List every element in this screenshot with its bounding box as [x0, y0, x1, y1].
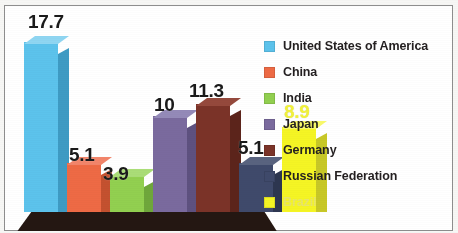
legend-swatch-icon	[264, 41, 275, 52]
legend-item-russian-federation[interactable]: Russian Federation	[264, 163, 451, 189]
legend-item-brazil[interactable]: Brazil	[264, 189, 451, 215]
value-label-russian-federation: 5.1	[238, 138, 264, 157]
legend-item-germany[interactable]: Germany	[264, 137, 451, 163]
bar-front-face	[196, 104, 230, 212]
legend-item-india[interactable]: India	[264, 85, 451, 111]
bar-germany[interactable]	[196, 104, 230, 212]
legend-swatch-icon	[264, 93, 275, 104]
legend-label: India	[283, 91, 312, 105]
legend-item-japan[interactable]: Japan	[264, 111, 451, 137]
value-label-united-states-of-america: 17.7	[28, 12, 64, 31]
legend-label: United States of America	[283, 39, 428, 53]
bar-china[interactable]	[67, 163, 101, 212]
bar-front-face	[24, 42, 58, 212]
legend-label: China	[283, 65, 317, 79]
legend-item-china[interactable]: China	[264, 59, 451, 85]
legend-label: Japan	[283, 117, 319, 131]
plot-area: 17.7 5.1 3.9 10 11.3 5.1 8.9 United Stat…	[6, 7, 451, 231]
chart-container: 17.7 5.1 3.9 10 11.3 5.1 8.9 United Stat…	[0, 0, 458, 233]
legend-label: Russian Federation	[283, 169, 397, 183]
value-label-india: 3.9	[103, 164, 129, 183]
legend-swatch-icon	[264, 67, 275, 78]
chart-legend: United States of America China India Jap…	[264, 33, 451, 215]
bar-top-face	[24, 36, 69, 44]
bar-united-states-of-america[interactable]	[24, 42, 58, 212]
legend-swatch-icon	[264, 171, 275, 182]
legend-swatch-icon	[264, 197, 275, 208]
legend-item-united-states-of-america[interactable]: United States of America	[264, 33, 451, 59]
legend-swatch-icon	[264, 119, 275, 130]
bar-front-face	[153, 116, 187, 212]
legend-swatch-icon	[264, 145, 275, 156]
value-label-china: 5.1	[69, 145, 95, 164]
bar-front-face	[67, 163, 101, 212]
legend-label: Germany	[283, 143, 337, 157]
legend-label: Brazil	[283, 195, 316, 209]
value-label-germany: 11.3	[189, 81, 224, 100]
value-label-japan: 10	[154, 95, 175, 114]
bar-japan[interactable]	[153, 116, 187, 212]
